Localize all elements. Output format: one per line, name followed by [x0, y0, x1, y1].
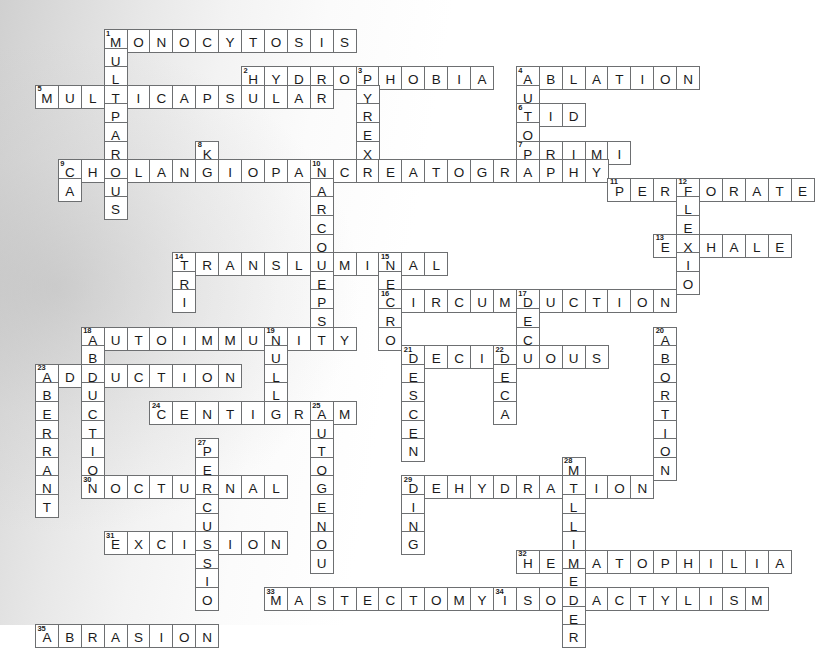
- crossword-cell[interactable]: L: [264, 475, 288, 499]
- crossword-cell[interactable]: B: [424, 66, 448, 90]
- crossword-cell[interactable]: M: [493, 289, 517, 313]
- crossword-cell[interactable]: L: [81, 85, 105, 109]
- crossword-cell[interactable]: R: [516, 475, 540, 499]
- crossword-cell[interactable]: E: [424, 345, 448, 369]
- crossword-cell[interactable]: E: [791, 178, 815, 202]
- crossword-cell[interactable]: T: [218, 401, 242, 425]
- crossword-cell[interactable]: 33M: [264, 587, 288, 611]
- crossword-cell[interactable]: I: [287, 327, 311, 351]
- crossword-cell[interactable]: O: [630, 289, 654, 313]
- crossword-cell[interactable]: A: [401, 159, 425, 183]
- crossword-cell[interactable]: S: [287, 29, 311, 53]
- crossword-cell[interactable]: A: [745, 178, 769, 202]
- crossword-cell[interactable]: O: [264, 29, 288, 53]
- crossword-cell[interactable]: T: [607, 66, 631, 90]
- crossword-cell[interactable]: U: [539, 289, 563, 313]
- crossword-cell[interactable]: C: [447, 345, 471, 369]
- crossword-cell[interactable]: C: [447, 289, 471, 313]
- crossword-cell[interactable]: I: [172, 289, 196, 313]
- crossword-cell[interactable]: N: [218, 364, 242, 388]
- crossword-cell[interactable]: O: [630, 550, 654, 574]
- crossword-cell[interactable]: 35A: [35, 624, 59, 648]
- crossword-cell[interactable]: O: [104, 475, 128, 499]
- crossword-cell[interactable]: O: [539, 345, 563, 369]
- crossword-cell[interactable]: U: [516, 345, 540, 369]
- crossword-cell[interactable]: T: [241, 29, 265, 53]
- crossword-cell[interactable]: S: [264, 252, 288, 276]
- crossword-cell[interactable]: C: [333, 159, 357, 183]
- crossword-cell[interactable]: S: [310, 587, 334, 611]
- crossword-cell[interactable]: I: [470, 345, 494, 369]
- crossword-cell[interactable]: O: [195, 364, 219, 388]
- crossword-cell[interactable]: A: [172, 85, 196, 109]
- crossword-cell[interactable]: O: [195, 587, 219, 611]
- crossword-cell[interactable]: O: [172, 624, 196, 648]
- crossword-cell[interactable]: S: [722, 587, 746, 611]
- crossword-cell[interactable]: R: [356, 159, 380, 183]
- crossword-cell[interactable]: I: [699, 587, 723, 611]
- crossword-cell[interactable]: E: [424, 475, 448, 499]
- crossword-cell[interactable]: H: [81, 159, 105, 183]
- crossword-cell[interactable]: O: [127, 29, 151, 53]
- crossword-cell[interactable]: N: [401, 438, 425, 462]
- crossword-cell[interactable]: I: [607, 141, 631, 165]
- crossword-cell[interactable]: R: [493, 159, 517, 183]
- crossword-cell[interactable]: A: [539, 475, 563, 499]
- crossword-cell[interactable]: H: [447, 475, 471, 499]
- crossword-cell[interactable]: T: [585, 289, 609, 313]
- crossword-cell[interactable]: M: [218, 327, 242, 351]
- crossword-cell[interactable]: O: [241, 159, 265, 183]
- crossword-cell[interactable]: N: [149, 29, 173, 53]
- crossword-cell[interactable]: G: [401, 531, 425, 555]
- crossword-cell[interactable]: L: [722, 550, 746, 574]
- crossword-cell[interactable]: I: [172, 364, 196, 388]
- crossword-cell[interactable]: T: [127, 327, 151, 351]
- crossword-cell[interactable]: 24C: [149, 401, 173, 425]
- crossword-cell[interactable]: A: [470, 66, 494, 90]
- crossword-cell[interactable]: Y: [333, 327, 357, 351]
- crossword-cell[interactable]: N: [241, 252, 265, 276]
- crossword-cell[interactable]: C: [127, 364, 151, 388]
- crossword-cell[interactable]: A: [149, 159, 173, 183]
- crossword-cell[interactable]: 31E: [104, 531, 128, 555]
- crossword-cell[interactable]: I: [401, 289, 425, 313]
- crossword-cell[interactable]: O: [172, 29, 196, 53]
- crossword-cell[interactable]: O: [333, 66, 357, 90]
- crossword-cell[interactable]: I: [745, 550, 769, 574]
- crossword-cell[interactable]: U: [172, 475, 196, 499]
- crossword-cell[interactable]: D: [493, 475, 517, 499]
- crossword-cell[interactable]: T: [401, 587, 425, 611]
- crossword-cell[interactable]: O: [424, 587, 448, 611]
- crossword-cell[interactable]: 5M: [35, 85, 59, 109]
- crossword-cell[interactable]: H: [378, 66, 402, 90]
- crossword-cell[interactable]: T: [149, 364, 173, 388]
- crossword-cell[interactable]: U: [58, 85, 82, 109]
- crossword-cell[interactable]: I: [585, 475, 609, 499]
- crossword-cell[interactable]: 13E: [653, 234, 677, 258]
- crossword-cell[interactable]: N: [630, 475, 654, 499]
- crossword-cell[interactable]: U: [562, 345, 586, 369]
- crossword-cell[interactable]: O: [607, 475, 631, 499]
- crossword-cell[interactable]: N: [218, 475, 242, 499]
- crossword-cell[interactable]: C: [149, 531, 173, 555]
- crossword-cell[interactable]: T: [424, 159, 448, 183]
- crossword-cell[interactable]: I: [699, 550, 723, 574]
- crossword-cell[interactable]: A: [287, 159, 311, 183]
- crossword-cell[interactable]: N: [195, 624, 219, 648]
- crossword-cell[interactable]: L: [127, 159, 151, 183]
- crossword-cell[interactable]: I: [127, 85, 151, 109]
- crossword-cell[interactable]: I: [218, 159, 242, 183]
- crossword-cell[interactable]: T: [768, 178, 792, 202]
- crossword-cell[interactable]: S: [585, 345, 609, 369]
- crossword-cell[interactable]: N: [653, 289, 677, 313]
- crossword-cell[interactable]: L: [562, 66, 586, 90]
- crossword-cell[interactable]: U: [104, 327, 128, 351]
- crossword-cell[interactable]: A: [493, 401, 517, 425]
- crossword-cell[interactable]: D: [58, 364, 82, 388]
- crossword-cell[interactable]: A: [104, 624, 128, 648]
- crossword-cell[interactable]: P: [195, 85, 219, 109]
- crossword-cell[interactable]: M: [333, 252, 357, 276]
- crossword-cell[interactable]: O: [378, 327, 402, 351]
- crossword-cell[interactable]: I: [172, 531, 196, 555]
- crossword-cell[interactable]: U: [470, 289, 494, 313]
